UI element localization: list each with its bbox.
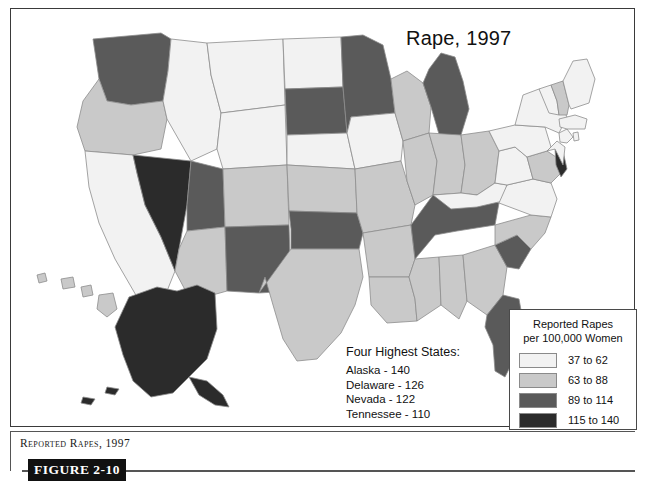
legend-title-line2: per 100,000 Women <box>510 331 636 345</box>
legend-label: 115 to 140 <box>568 414 619 426</box>
legend-swatch <box>519 393 557 408</box>
state-MI <box>423 53 469 141</box>
state-UT <box>187 161 225 231</box>
callout-item: Tennessee - 110 <box>346 407 496 422</box>
state-SD <box>285 87 347 135</box>
state-CT <box>559 129 573 143</box>
legend-rows: 37 to 62 63 to 88 89 to 114 115 to 140 <box>510 353 636 428</box>
state-KS <box>287 165 357 213</box>
state-NE <box>287 133 355 169</box>
state-HI-3 <box>81 285 93 297</box>
state-ME <box>563 59 595 109</box>
legend-row[interactable]: 89 to 114 <box>519 393 636 408</box>
legend-row[interactable]: 37 to 62 <box>519 353 636 368</box>
figure-page: Rape, 1997 Four Highest States: Alaska -… <box>0 0 645 486</box>
callout-item: Delaware - 126 <box>346 378 496 393</box>
legend-label: 89 to 114 <box>568 394 613 406</box>
state-HI-2 <box>61 277 75 289</box>
map-title: Rape, 1997 <box>406 27 511 50</box>
state-CO <box>223 165 289 227</box>
state-LA <box>369 277 417 323</box>
state-AL <box>439 255 467 319</box>
highest-states-callout: Four Highest States: Alaska - 140 Delawa… <box>346 344 496 422</box>
state-WY <box>217 105 287 169</box>
legend-label: 37 to 62 <box>568 354 608 366</box>
state-RI <box>573 132 579 141</box>
legend-title-line1: Reported Rapes <box>510 317 636 331</box>
legend-label: 63 to 88 <box>568 374 608 386</box>
state-HI-4 <box>97 293 117 317</box>
caption-top-rule <box>10 431 635 432</box>
legend-row[interactable]: 63 to 88 <box>519 373 636 388</box>
state-AR <box>363 225 415 277</box>
figure-caption: Reported Rapes, 1997 <box>20 437 130 449</box>
state-MT <box>207 39 285 113</box>
figure-number-badge: FIGURE 2-10 <box>28 459 126 481</box>
callout-item: Alaska - 140 <box>346 363 496 378</box>
callout-heading: Four Highest States: <box>346 344 496 360</box>
legend-row[interactable]: 115 to 140 <box>519 413 636 428</box>
state-AK-panhandle <box>189 377 229 407</box>
legend-swatch <box>519 373 557 388</box>
callout-item: Nevada - 122 <box>346 392 496 407</box>
state-HI-1 <box>37 273 47 283</box>
state-IA <box>347 113 403 169</box>
legend-swatch <box>519 413 557 428</box>
state-ND <box>283 37 343 89</box>
state-AK-aleutian-1 <box>105 387 119 395</box>
map-frame: Rape, 1997 Four Highest States: Alaska -… <box>10 8 635 427</box>
figure-number-label: FIGURE 2-10 <box>34 462 120 478</box>
state-AK-aleutian-2 <box>81 397 95 405</box>
caption-left-rule <box>10 431 11 471</box>
legend-swatch <box>519 353 557 368</box>
state-OK <box>289 211 363 249</box>
map-legend: Reported Rapes per 100,000 Women 37 to 6… <box>509 309 637 430</box>
